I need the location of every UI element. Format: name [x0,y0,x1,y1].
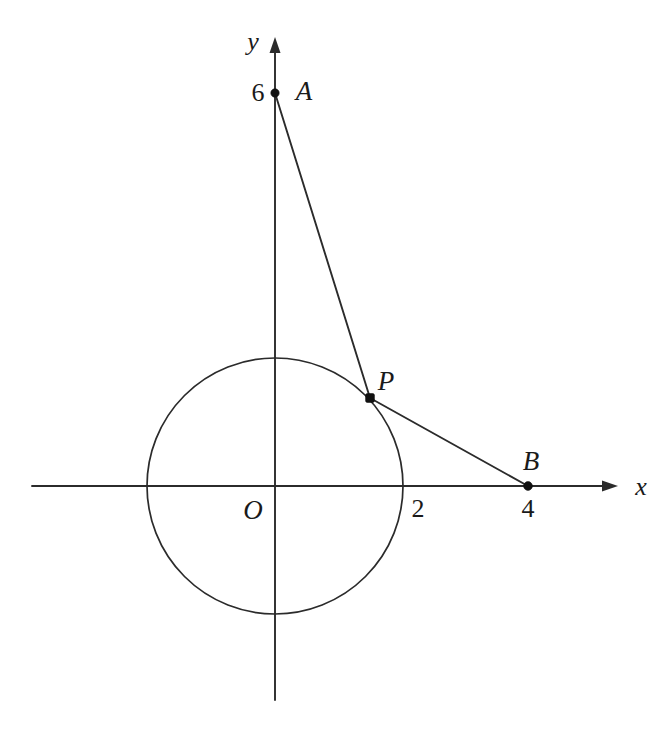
segment-AP [275,93,370,398]
y-tick-label-6: 6 [252,80,265,106]
figure-canvas [0,0,669,729]
x-tick-label-4: 4 [522,496,535,522]
point-P-label: P [378,368,395,395]
point-B-dot [524,482,533,491]
point-A-label: A [296,78,313,105]
geometry-figure: y x O 6 2 4 A P B [0,0,669,729]
y-axis-arrowhead-icon [270,37,281,53]
x-tick-label-2: 2 [412,496,425,522]
segment-PB [370,398,528,486]
point-B-label: B [523,448,540,475]
point-P-dot [366,394,375,403]
x-axis-arrowhead-icon [602,481,618,492]
y-axis-label: y [247,29,259,55]
origin-label: O [243,497,263,524]
point-A-dot [271,89,279,97]
x-axis-label: x [635,474,647,500]
